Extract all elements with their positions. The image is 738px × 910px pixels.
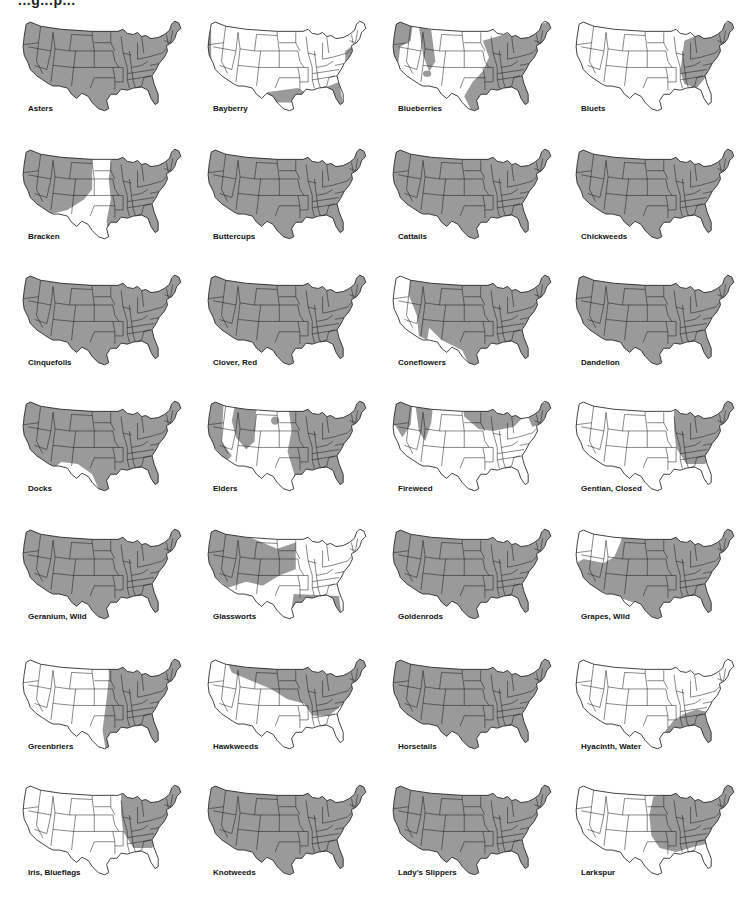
- map-label: Lady's Slippers: [398, 868, 457, 877]
- map-label: Gentian, Closed: [581, 484, 642, 493]
- distribution-map: Cinquefoils: [0, 254, 185, 382]
- map-label: Knotweeds: [213, 868, 256, 877]
- distribution-map: Greenbriers: [0, 638, 185, 766]
- distribution-map: Fireweed: [370, 380, 555, 508]
- map-label: Grapes, Wild: [581, 612, 630, 621]
- distribution-map: Glassworts: [185, 508, 370, 636]
- map-label: Buttercups: [213, 232, 255, 241]
- distribution-map: Bayberry: [185, 0, 370, 128]
- distribution-map: Buttercups: [185, 128, 370, 256]
- map-label: Cattails: [398, 232, 427, 241]
- distribution-map: Goldenrods: [370, 508, 555, 636]
- map-label: Bluets: [581, 104, 605, 113]
- map-label: Blueberries: [398, 104, 442, 113]
- distribution-map: Coneflowers: [370, 254, 555, 382]
- map-label: Fireweed: [398, 484, 433, 493]
- map-label: Geranium, Wild: [28, 612, 87, 621]
- map-label: Chickweeds: [581, 232, 627, 241]
- distribution-map: Geranium, Wild: [0, 508, 185, 636]
- map-label: Docks: [28, 484, 52, 493]
- map-label: Clover, Red: [213, 358, 257, 367]
- map-label: Bracken: [28, 232, 60, 241]
- map-label: Coneflowers: [398, 358, 446, 367]
- map-label: Goldenrods: [398, 612, 443, 621]
- distribution-map: Hyacinth, Water: [553, 638, 738, 766]
- distribution-map: Knotweeds: [185, 764, 370, 892]
- distribution-map: Blueberries: [370, 0, 555, 128]
- distribution-map: Horsetails: [370, 638, 555, 766]
- distribution-map: Lady's Slippers: [370, 764, 555, 892]
- map-label: Greenbriers: [28, 742, 73, 751]
- map-label: Larkspur: [581, 868, 615, 877]
- distribution-map: Dandelion: [553, 254, 738, 382]
- distribution-map: Chickweeds: [553, 128, 738, 256]
- distribution-map: Iris, Blueflags: [0, 764, 185, 892]
- map-label: Hyacinth, Water: [581, 742, 641, 751]
- map-label: Hawkweeds: [213, 742, 258, 751]
- distribution-map: Bracken: [0, 128, 185, 256]
- distribution-map: Clover, Red: [185, 254, 370, 382]
- map-label: Elders: [213, 484, 237, 493]
- map-label: Dandelion: [581, 358, 620, 367]
- distribution-map: Larkspur: [553, 764, 738, 892]
- distribution-map: Elders: [185, 380, 370, 508]
- distribution-map: Gentian, Closed: [553, 380, 738, 508]
- map-label: Iris, Blueflags: [28, 868, 80, 877]
- map-label: Glassworts: [213, 612, 256, 621]
- distribution-map: Asters: [0, 0, 185, 128]
- distribution-map: Bluets: [553, 0, 738, 128]
- map-label: Cinquefoils: [28, 358, 72, 367]
- distribution-map: Docks: [0, 380, 185, 508]
- map-label: Horsetails: [398, 742, 437, 751]
- distribution-map: Cattails: [370, 128, 555, 256]
- map-label: Bayberry: [213, 104, 248, 113]
- map-label: Asters: [28, 104, 53, 113]
- distribution-map: Hawkweeds: [185, 638, 370, 766]
- map-grid: AstersBayberryBlueberriesBluetsBrackenBu…: [0, 0, 738, 910]
- distribution-map: Grapes, Wild: [553, 508, 738, 636]
